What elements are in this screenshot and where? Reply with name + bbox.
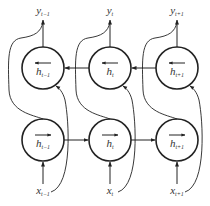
forward-hidden-node — [22, 119, 64, 161]
birnn-diagram: ht−1ht−1yt−1xt−1hthtytxtht+1ht+1yt+1xt+1 — [0, 0, 210, 206]
forward-hidden-node — [156, 119, 198, 161]
backward-hidden-node — [22, 47, 64, 89]
input-label: xt+1 — [169, 184, 184, 197]
output-label: yt+1 — [169, 4, 184, 17]
diagram-content: ht−1ht−1yt−1xt−1hthtytxtht+1ht+1yt+1xt+1 — [8, 4, 202, 197]
output-label: yt−1 — [35, 4, 50, 17]
backward-hidden-node — [156, 47, 198, 89]
input-label: xt−1 — [35, 184, 50, 197]
output-label: yt — [106, 4, 114, 17]
input-label: xt — [106, 184, 114, 197]
